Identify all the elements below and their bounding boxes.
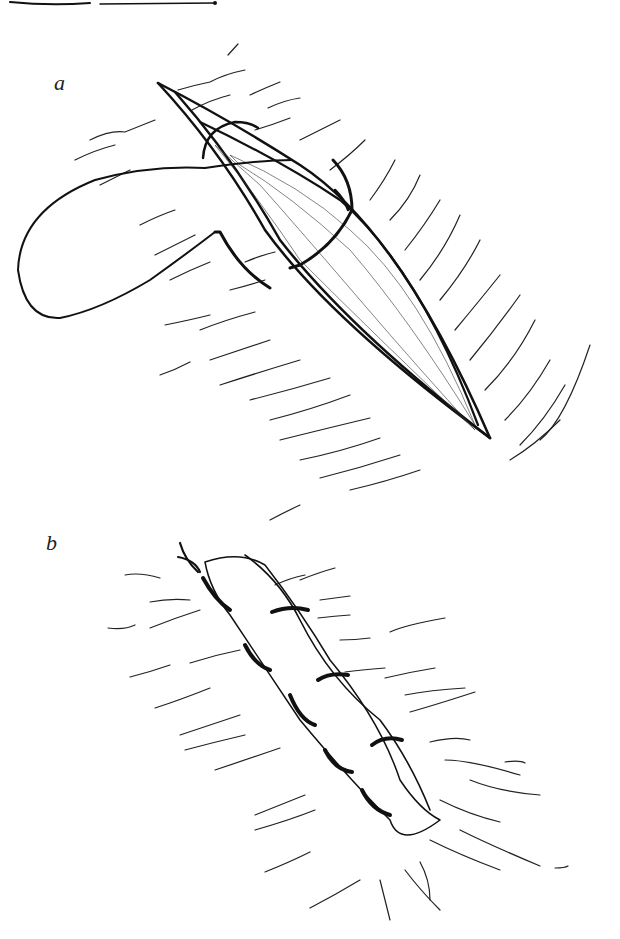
- panel-b-drawing: [108, 543, 568, 920]
- skin-texture-b: [108, 568, 568, 920]
- wound-open: [158, 83, 490, 438]
- skin-texture-a: [75, 70, 590, 520]
- suture-illustration: a b: [0, 0, 620, 939]
- panel-label-a: a: [54, 70, 65, 96]
- panel-a-drawing: [18, 70, 590, 520]
- panel-label-b: b: [46, 530, 57, 556]
- suture-needle-and-thread: [18, 122, 352, 318]
- drawing-canvas: [0, 0, 620, 939]
- closed-wound: [178, 543, 440, 835]
- top-fragment: [10, 1, 238, 55]
